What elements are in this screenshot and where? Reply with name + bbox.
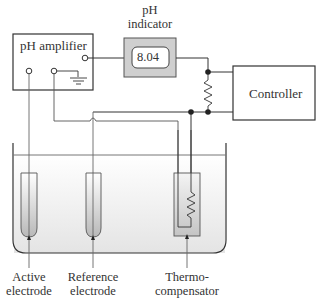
junction-dot [205, 69, 211, 75]
reference-electrode-label: Reference electrode [62, 270, 124, 298]
junction-dot [205, 109, 211, 115]
controller-label: Controller [249, 86, 302, 102]
thermo-compensator-label: Thermo- compensator [148, 270, 226, 298]
active-electrode-label-line1: Active [0, 270, 58, 284]
indicator-to-junction-wire [176, 58, 208, 72]
ph-reading-display: 8.04 [137, 50, 159, 65]
ph-indicator-label-line1: pH [125, 3, 175, 17]
thermo-compensator [174, 130, 200, 236]
junction-dot [188, 109, 194, 115]
thermo-compensator-label-line2: compensator [148, 284, 226, 298]
ph-amplifier-label: pH amplifier [20, 38, 87, 54]
resistor-icon [204, 72, 212, 112]
reference-electrode-label-line2: electrode [62, 284, 124, 298]
active-electrode-label: Active electrode [0, 270, 58, 298]
ph-indicator-label-line2: indicator [125, 17, 175, 31]
thermo-compensator-label-line1: Thermo- [148, 270, 226, 284]
active-electrode [21, 173, 37, 237]
ph-indicator-label: pH indicator [125, 3, 175, 31]
reference-electrode [86, 173, 101, 237]
active-electrode-label-line2: electrode [0, 284, 58, 298]
reference-electrode-label-line1: Reference [62, 270, 124, 284]
